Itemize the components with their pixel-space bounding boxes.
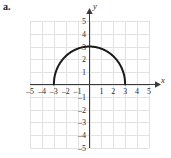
coordinate-plane-figure: –5–4–3–2–112345 54321–1–2–3–4–5 x y bbox=[0, 0, 171, 158]
y-tick-label: –1 bbox=[77, 93, 86, 102]
y-tick-label: 5 bbox=[82, 17, 86, 26]
y-tick-label: –5 bbox=[77, 144, 86, 153]
x-axis-arrowhead bbox=[155, 81, 161, 87]
x-tick-label: –3 bbox=[49, 87, 58, 96]
x-tick-label: 1 bbox=[99, 87, 103, 96]
y-tick-label: –2 bbox=[77, 106, 86, 115]
graph-svg: –5–4–3–2–112345 54321–1–2–3–4–5 x y bbox=[0, 0, 171, 158]
y-tick-label: 1 bbox=[82, 68, 86, 77]
y-axis-label: y bbox=[92, 1, 97, 11]
y-tick-label: –3 bbox=[77, 118, 86, 127]
x-tick-label: –5 bbox=[25, 87, 34, 96]
y-axis-arrowhead bbox=[86, 8, 92, 14]
x-tick-label: 2 bbox=[111, 87, 115, 96]
x-tick-labels: –5–4–3–2–112345 bbox=[25, 87, 151, 96]
x-tick-label: 3 bbox=[123, 87, 127, 96]
x-tick-label: –4 bbox=[37, 87, 46, 96]
axes-group bbox=[30, 8, 161, 148]
figure-panel: a. –5–4–3–2–112345 54321–1–2–3–4–5 x y bbox=[0, 0, 171, 158]
y-tick-label: –4 bbox=[77, 131, 86, 140]
y-tick-label: 4 bbox=[82, 30, 86, 39]
x-tick-label: 4 bbox=[135, 87, 139, 96]
x-tick-label: –2 bbox=[61, 87, 70, 96]
x-axis-label: x bbox=[160, 75, 165, 85]
y-tick-label: 2 bbox=[82, 55, 86, 64]
x-tick-label: 5 bbox=[147, 87, 151, 96]
